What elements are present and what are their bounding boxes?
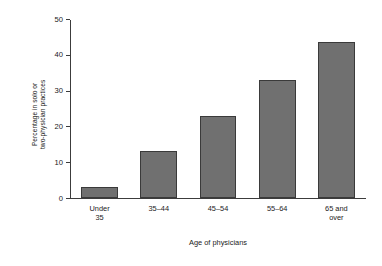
x-axis-title: Age of physicians xyxy=(70,238,366,247)
x-axis-tick-label: 65 andover xyxy=(307,204,366,223)
y-axis-title-line-2: two-physician practices xyxy=(39,29,47,199)
y-axis-tick: 20 xyxy=(66,126,70,127)
x-axis-tick-label-line: 65 and xyxy=(307,204,366,213)
x-axis-tick-label: 55–64 xyxy=(248,204,307,213)
y-axis-tick: 40 xyxy=(66,55,70,56)
y-axis-tick-label: 10 xyxy=(55,159,63,167)
bar xyxy=(140,151,177,198)
x-axis-tick-label: 45–54 xyxy=(188,204,247,213)
y-axis-title-line-1: Percentage in solo or xyxy=(31,29,39,199)
y-axis-tick: 0 xyxy=(66,198,70,199)
y-axis-tick-label: 20 xyxy=(55,123,63,131)
x-axis-tick-label-line: 55–64 xyxy=(248,204,307,213)
y-axis-line xyxy=(70,20,71,199)
y-axis-tick: 50 xyxy=(66,19,70,20)
x-axis-tick-label: Under35 xyxy=(70,204,129,223)
plot-area: 01020304050 Under3535–4445–5455–6465 and… xyxy=(70,20,366,199)
y-axis-title: Percentage in solo or two-physician prac… xyxy=(31,29,48,199)
bar xyxy=(81,187,118,198)
y-axis-tick-label: 50 xyxy=(55,16,63,24)
x-axis-tick-label: 35–44 xyxy=(129,204,188,213)
x-axis-tick-label-line: Under xyxy=(70,204,129,213)
bar xyxy=(259,80,296,198)
x-axis-tick-label-line: 35 xyxy=(70,213,129,222)
y-axis-tick-label: 40 xyxy=(55,51,63,59)
x-axis-tick-label-line: 35–44 xyxy=(129,204,188,213)
x-axis-tick-label-line: over xyxy=(307,213,366,222)
y-axis-tick-label: 0 xyxy=(59,195,63,203)
bar-chart-figure: Percentage in solo or two-physician prac… xyxy=(0,0,382,266)
bar xyxy=(318,42,355,198)
y-axis-tick-label: 30 xyxy=(55,87,63,95)
bar xyxy=(200,116,237,198)
x-axis-tick-label-line: 45–54 xyxy=(188,204,247,213)
y-axis-tick: 30 xyxy=(66,91,70,92)
x-axis-line xyxy=(70,198,366,199)
y-axis-tick: 10 xyxy=(66,162,70,163)
